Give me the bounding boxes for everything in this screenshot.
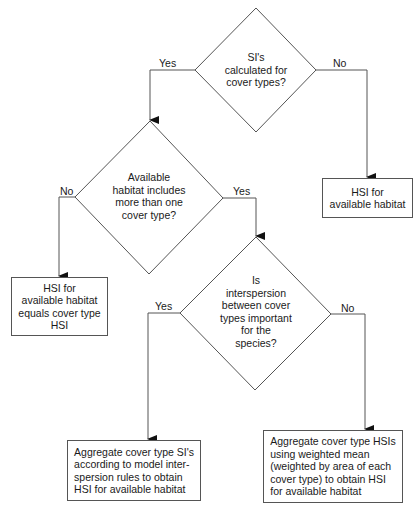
decision-text-interspersion: Is interspersion between cover types imp… xyxy=(206,274,306,349)
edge-label-d3-no: No xyxy=(341,302,354,314)
edge-label-d2-yes: Yes xyxy=(233,185,250,197)
outcome-box-aggregate-si: Aggregate cover type SI's according to m… xyxy=(67,440,201,501)
outcome-box-hsi-available: HSI for available habitat xyxy=(322,178,413,218)
decision-text-multiple-cover: Available habitat includes more than one… xyxy=(99,171,199,221)
edge-label-d3-yes: Yes xyxy=(155,300,172,312)
outcome-text-hsi-available: HSI for available habitat xyxy=(330,186,406,211)
outcome-text-aggregate-si: Aggregate cover type SI's according to m… xyxy=(74,446,194,496)
outcome-box-aggregate-hsi: Aggregate cover type HSIs using weighted… xyxy=(263,430,403,503)
edge-label-d2-no: No xyxy=(60,185,73,197)
edge-label-d1-no: No xyxy=(333,57,346,69)
edge-label-d1-yes: Yes xyxy=(159,57,176,69)
decision-text-cover-types: SI's calculated for cover types? xyxy=(206,51,306,89)
outcome-text-aggregate-hsi: Aggregate cover type HSIs using weighted… xyxy=(270,435,395,498)
outcome-text-hsi-equals-cover: HSI for available habitat equals cover t… xyxy=(18,282,100,332)
outcome-box-hsi-equals-cover: HSI for available habitat equals cover t… xyxy=(11,277,108,336)
